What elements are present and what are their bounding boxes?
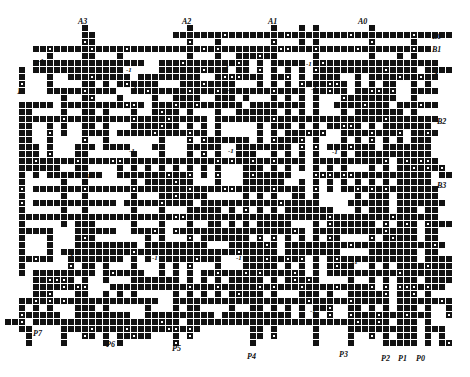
- routing-via-cell: [201, 81, 207, 87]
- routing-wire-cell: [61, 88, 67, 94]
- routing-wire-cell: [159, 249, 165, 255]
- routing-wire-cell: [187, 291, 193, 297]
- routing-wire-cell: [229, 228, 235, 234]
- routing-wire-cell: [285, 312, 291, 318]
- routing-wire-cell: [390, 326, 396, 332]
- routing-wire-cell: [33, 291, 39, 297]
- routing-wire-cell: [89, 130, 95, 136]
- routing-wire-cell: [376, 116, 382, 122]
- routing-wire-cell: [390, 74, 396, 80]
- routing-via-cell: [404, 158, 410, 164]
- routing-wire-cell: [103, 158, 109, 164]
- routing-wire-cell: [103, 67, 109, 73]
- output-label-p: P0: [416, 355, 425, 363]
- routing-wire-cell: [243, 116, 249, 122]
- routing-wire-cell: [439, 242, 445, 248]
- routing-wire-cell: [54, 46, 60, 52]
- routing-wire-cell: [313, 165, 319, 171]
- routing-via-cell: [68, 263, 74, 269]
- routing-wire-cell: [110, 228, 116, 234]
- routing-wire-cell: [173, 263, 179, 269]
- routing-wire-cell: [103, 214, 109, 220]
- routing-wire-cell: [334, 32, 340, 38]
- routing-wire-cell: [418, 179, 424, 185]
- routing-wire-cell: [250, 88, 256, 94]
- routing-wire-cell: [47, 123, 53, 129]
- routing-wire-cell: [19, 165, 25, 171]
- routing-wire-cell: [271, 151, 277, 157]
- routing-wire-cell: [124, 158, 130, 164]
- routing-wire-cell: [152, 214, 158, 220]
- routing-wire-cell: [257, 228, 263, 234]
- routing-wire-cell: [390, 46, 396, 52]
- routing-wire-cell: [376, 214, 382, 220]
- routing-wire-cell: [194, 249, 200, 255]
- routing-wire-cell: [33, 305, 39, 311]
- routing-via-cell: [313, 186, 319, 192]
- routing-wire-cell: [194, 144, 200, 150]
- routing-via-cell: [159, 109, 165, 115]
- routing-wire-cell: [257, 249, 263, 255]
- routing-wire-cell: [404, 186, 410, 192]
- routing-wire-cell: [299, 186, 305, 192]
- routing-via-cell: [271, 116, 277, 122]
- routing-wire-cell: [187, 242, 193, 248]
- routing-wire-cell: [75, 200, 81, 206]
- routing-wire-cell: [341, 109, 347, 115]
- routing-wire-cell: [369, 319, 375, 325]
- routing-wire-cell: [348, 340, 354, 346]
- routing-wire-cell: [292, 32, 298, 38]
- routing-wire-cell: [194, 130, 200, 136]
- routing-wire-cell: [173, 298, 179, 304]
- routing-via-cell: [327, 221, 333, 227]
- routing-via-cell: [439, 165, 445, 171]
- routing-wire-cell: [19, 235, 25, 241]
- routing-wire-cell: [47, 81, 53, 87]
- routing-wire-cell: [47, 270, 53, 276]
- routing-wire-cell: [243, 151, 249, 157]
- routing-wire-cell: [369, 326, 375, 332]
- routing-wire-cell: [201, 207, 207, 213]
- routing-wire-cell: [341, 179, 347, 185]
- routing-wire-cell: [243, 67, 249, 73]
- routing-wire-cell: [299, 193, 305, 199]
- routing-wire-cell: [89, 200, 95, 206]
- routing-wire-cell: [271, 326, 277, 332]
- routing-wire-cell: [341, 88, 347, 94]
- routing-wire-cell: [334, 123, 340, 129]
- routing-wire-cell: [54, 270, 60, 276]
- routing-wire-cell: [397, 277, 403, 283]
- routing-wire-cell: [40, 256, 46, 262]
- routing-via-cell: [327, 312, 333, 318]
- routing-wire-cell: [425, 200, 431, 206]
- routing-wire-cell: [47, 256, 53, 262]
- routing-wire-cell: [180, 130, 186, 136]
- routing-wire-cell: [271, 291, 277, 297]
- routing-wire-cell: [425, 207, 431, 213]
- routing-wire-cell: [243, 137, 249, 143]
- routing-wire-cell: [229, 116, 235, 122]
- routing-wire-cell: [33, 312, 39, 318]
- routing-wire-cell: [180, 312, 186, 318]
- routing-wire-cell: [173, 123, 179, 129]
- routing-wire-cell: [82, 60, 88, 66]
- routing-via-cell: [166, 326, 172, 332]
- routing-wire-cell: [327, 270, 333, 276]
- routing-via-cell: [313, 46, 319, 52]
- routing-wire-cell: [404, 263, 410, 269]
- routing-via-cell: [173, 179, 179, 185]
- routing-wire-cell: [229, 137, 235, 143]
- routing-wire-cell: [110, 200, 116, 206]
- routing-wire-cell: [250, 298, 256, 304]
- routing-wire-cell: [404, 333, 410, 339]
- routing-wire-cell: [68, 270, 74, 276]
- routing-wire-cell: [432, 270, 438, 276]
- routing-wire-cell: [376, 270, 382, 276]
- routing-wire-cell: [362, 291, 368, 297]
- routing-wire-cell: [397, 60, 403, 66]
- routing-wire-cell: [411, 228, 417, 234]
- routing-wire-cell: [271, 319, 277, 325]
- routing-wire-cell: [75, 256, 81, 262]
- routing-wire-cell: [390, 130, 396, 136]
- routing-via-cell: [159, 123, 165, 129]
